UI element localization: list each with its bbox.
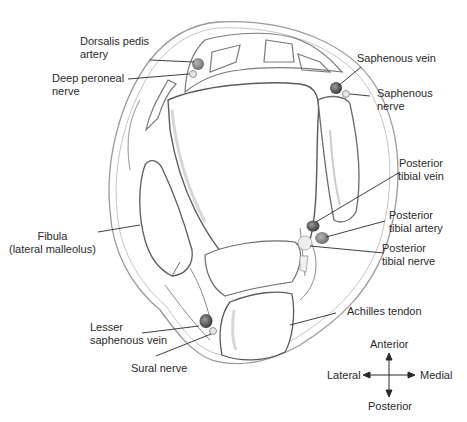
sural-nerve	[210, 328, 217, 335]
posterior-tibial-artery	[315, 232, 329, 244]
label-posterior-tibial-vein: Posterior tibial vein	[398, 157, 444, 183]
label-saphenous-nerve: Saphenous nerve	[377, 87, 433, 113]
medial-malleolus	[318, 97, 359, 222]
label-posterior-tibial-nerve: Posterior tibial nerve	[382, 242, 435, 268]
tibia	[168, 83, 319, 262]
label-deep-peroneal-nerve: Deep peroneal nerve	[52, 72, 124, 98]
compass-lateral: Lateral	[327, 369, 361, 382]
label-lesser-saphenous-vein: Lesser saphenous vein	[90, 321, 167, 347]
orientation-compass	[363, 353, 415, 397]
label-saphenous-vein: Saphenous vein	[357, 52, 436, 65]
compass-posterior: Posterior	[368, 400, 412, 413]
dorsalis-pedis-artery	[192, 58, 204, 70]
saphenous-nerve	[343, 91, 350, 98]
label-achilles-tendon: Achilles tendon	[347, 305, 422, 318]
achilles-tendon	[220, 292, 294, 360]
compass-medial: Medial	[420, 369, 452, 382]
label-fibula: Fibula (lateral malleolus)	[9, 230, 96, 256]
compass-anterior: Anterior	[370, 338, 409, 351]
lesser-saphenous-vein	[200, 314, 213, 328]
deep-peroneal-nerve	[190, 71, 197, 78]
label-posterior-tibial-artery: Posterior tibial artery	[389, 209, 443, 235]
label-dorsalis-pedis-artery: Dorsalis pedis artery	[80, 35, 149, 61]
posterior-tibial-vein	[307, 221, 320, 232]
label-sural-nerve: Sural nerve	[131, 362, 187, 375]
